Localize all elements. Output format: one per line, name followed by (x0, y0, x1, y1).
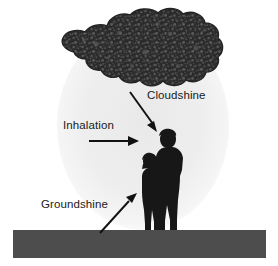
label-cloudshine: Cloudshine (147, 89, 206, 102)
label-inhalation: Inhalation (63, 119, 114, 132)
exposure-pathways-diagram: Cloudshine Inhalation Groundshine (0, 0, 278, 266)
label-groundshine: Groundshine (41, 198, 108, 211)
ground-bar (13, 230, 266, 258)
diagram-canvas (0, 0, 278, 266)
